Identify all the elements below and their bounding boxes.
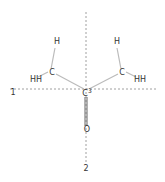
axis-1-label: 1 — [10, 89, 15, 97]
atom-superscript: 3 — [88, 87, 92, 94]
atom-left-top-hydrogen: H — [54, 38, 60, 46]
bonds-layer — [38, 48, 136, 126]
atom-symbol: C — [119, 68, 125, 77]
atom-symbol: HH — [134, 75, 146, 84]
atom-symbol: H — [114, 37, 120, 46]
atom-right-methyl-carbon: C — [119, 69, 125, 77]
atom-symbol: H — [54, 37, 60, 46]
atom-left-methyl-carbon: C — [49, 69, 55, 77]
bond-c-left-h-left-top — [51, 48, 55, 69]
atom-left-hydrogens: HH — [30, 76, 42, 84]
atom-symbol: C — [49, 68, 55, 77]
atom-symbol: O — [84, 125, 90, 134]
atom-symbol: HH — [30, 75, 42, 84]
bond-c3-c-right — [89, 74, 118, 89]
axes-layer — [10, 12, 158, 163]
atom-right-hydrogens: HH — [134, 76, 146, 84]
atom-c3-central-carbon: C3 — [82, 90, 91, 98]
atom-symbol: C — [82, 89, 88, 98]
molecule-diagram: 1 2 C3 O C H HH C H HH — [0, 0, 165, 182]
atom-right-top-hydrogen: H — [114, 38, 120, 46]
bond-c-right-h-right-top — [117, 48, 121, 69]
axis-2-label: 2 — [83, 165, 88, 173]
bond-c3-c-left — [56, 74, 84, 89]
atom-oxygen: O — [84, 126, 90, 134]
